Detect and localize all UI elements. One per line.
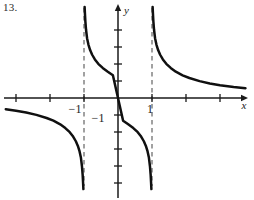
figure-container: 13. −11−1 xy (0, 0, 254, 200)
graph-plot: −11−1 xy (0, 0, 254, 200)
y-axis-label: y (123, 4, 129, 16)
x-tick-label-one: 1 (147, 102, 153, 116)
x-tick-label-negative-one: −1 (69, 102, 82, 116)
axis-names-group: xy (123, 4, 247, 111)
curve-branch-right (153, 7, 246, 88)
y-axis-arrowhead (115, 4, 121, 11)
curve-branch-left (6, 109, 84, 189)
x-axis-label: x (241, 99, 247, 111)
tick-labels-group: −11−1 (69, 102, 153, 125)
axes-group (4, 4, 248, 198)
y-tick-label-negative-one: −1 (92, 111, 105, 125)
